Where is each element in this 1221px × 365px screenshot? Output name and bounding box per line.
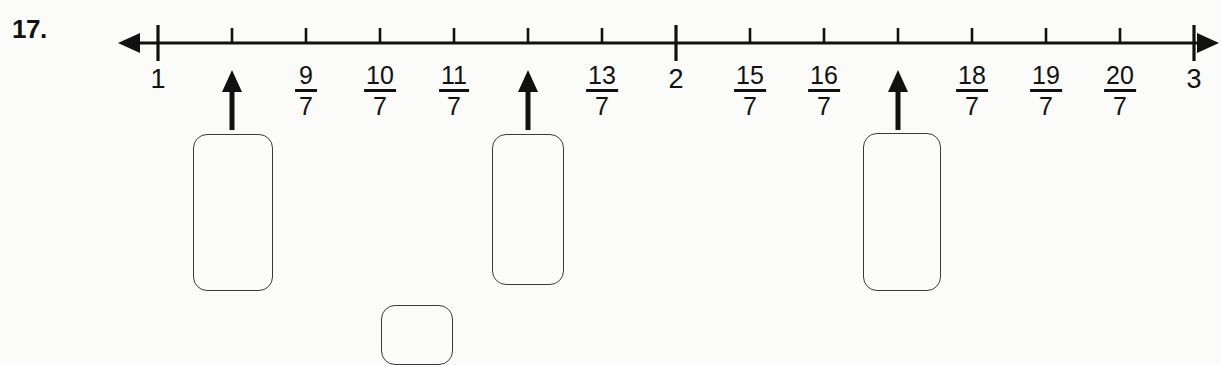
tick-label-fraction: 157 (734, 62, 766, 120)
tick-label-fraction: 97 (295, 62, 317, 120)
tick-label-fraction: 117 (439, 62, 469, 120)
tick-label-fraction: 107 (364, 62, 396, 120)
number-line-axis (118, 33, 1219, 53)
fraction-denominator: 7 (741, 92, 759, 119)
pointer-3 (888, 70, 908, 130)
tick-label-fraction: 187 (956, 62, 988, 120)
answer-box-1[interactable] (193, 134, 273, 291)
fraction-denominator: 7 (1037, 92, 1055, 119)
tick-label-fraction: 137 (586, 62, 618, 120)
answer-box-4[interactable] (381, 305, 453, 365)
tick-label-fraction: 197 (1030, 62, 1062, 120)
fraction-numerator: 16 (808, 62, 840, 89)
tick-label-integer: 1 (150, 66, 165, 93)
fraction-numerator: 20 (1104, 62, 1136, 89)
fraction-numerator: 11 (439, 62, 469, 89)
fraction-denominator: 7 (371, 92, 389, 119)
fraction-numerator: 15 (734, 62, 766, 89)
tick-label-fraction: 167 (808, 62, 840, 120)
answer-box-2[interactable] (492, 134, 564, 285)
fraction-denominator: 7 (815, 92, 833, 119)
fraction-denominator: 7 (593, 92, 611, 119)
fraction-denominator: 7 (297, 92, 315, 119)
tick-label-integer: 3 (1186, 66, 1201, 93)
tick-label-integer: 2 (668, 66, 683, 93)
pointer-2 (518, 70, 538, 130)
number-line-pointer-arrows (222, 70, 908, 130)
pointer-arrowhead (888, 70, 908, 92)
fraction-numerator: 13 (586, 62, 618, 89)
tick-label-fraction: 207 (1104, 62, 1136, 120)
fraction-numerator: 10 (364, 62, 396, 89)
fraction-numerator: 9 (297, 62, 315, 89)
fraction-denominator: 7 (445, 92, 463, 119)
pointer-arrowhead (222, 70, 242, 92)
fraction-denominator: 7 (1111, 92, 1129, 119)
fraction-numerator: 19 (1030, 62, 1062, 89)
axis-left-arrowhead (118, 33, 140, 53)
answer-box-3[interactable] (863, 133, 941, 291)
axis-right-arrowhead (1197, 33, 1219, 53)
fraction-denominator: 7 (963, 92, 981, 119)
fraction-numerator: 18 (956, 62, 988, 89)
pointer-1 (222, 70, 242, 130)
pointer-arrowhead (518, 70, 538, 92)
